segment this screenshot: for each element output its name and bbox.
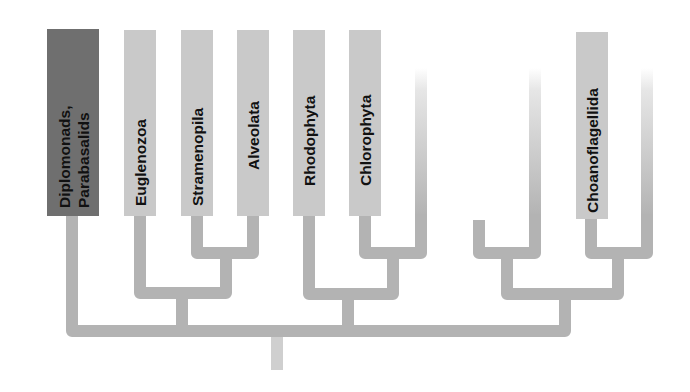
taxon-label-choanoflagellida: Choanoflagellida [584,88,601,213]
tree-branches [72,214,647,331]
taxon-label-euglenozoa: Euglenozoa [132,119,149,206]
taxon-diplomonads: Diplomonads, Parabasalids [47,29,99,216]
root-stub [271,337,283,370]
taxon-label-diplomonads-line2: Parabasalids [75,112,92,208]
taxon-chlorophyta: Chlorophyta [349,30,381,216]
lineage-unlabeled-4-fade [641,68,653,216]
branch-left-pair [479,214,535,253]
branch-stramenopila-alveolata [197,214,253,253]
taxon-alveolata: Alveolata [237,30,269,216]
taxon-euglenozoa: Euglenozoa [124,30,156,216]
taxon-label-rhodophyta: Rhodophyta [301,95,318,186]
taxon-rhodophyta: Rhodophyta [293,30,325,216]
taxon-stramenopila: Stramenopila [181,30,213,216]
phylogenetic-tree: Diplomonads, Parabasalids Euglenozoa Str… [0,0,690,392]
branch-choano-pair [591,214,647,253]
taxon-label-alveolata: Alveolata [245,101,262,170]
taxon-label-chlorophyta: Chlorophyta [357,94,374,186]
taxon-label-diplomonads-line1: Diplomonads, [56,106,73,208]
taxon-choanoflagellida: Choanoflagellida [576,32,608,219]
lineage-unlabeled-3-fade [529,68,541,216]
branch-right-group [507,253,618,294]
branch-chlorophyta-sister [365,214,421,253]
lineage-unlabeled-1-fade [415,68,427,216]
taxon-label-stramenopila: Stramenopila [189,107,206,206]
